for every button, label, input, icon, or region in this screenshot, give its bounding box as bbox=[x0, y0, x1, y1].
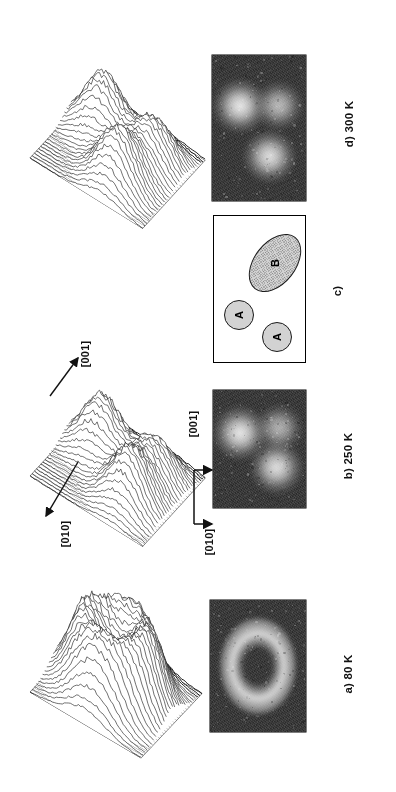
photo-speckle bbox=[303, 718, 305, 720]
photo-speckle bbox=[255, 423, 256, 424]
photo-speckle bbox=[220, 188, 221, 189]
photo-speckle bbox=[250, 410, 251, 411]
photo-speckle bbox=[223, 132, 225, 134]
photo-speckle bbox=[273, 408, 275, 410]
photo-speckle bbox=[231, 628, 233, 630]
photo-speckle bbox=[238, 700, 240, 702]
photo-speckle bbox=[246, 115, 247, 116]
photo-speckle bbox=[219, 652, 220, 653]
photo-speckle bbox=[249, 721, 250, 722]
photo-speckle bbox=[285, 399, 287, 401]
photo-speckle bbox=[231, 472, 232, 473]
photo-speckle bbox=[246, 649, 248, 651]
photo-speckle bbox=[254, 446, 255, 447]
photo-speckle bbox=[260, 689, 261, 690]
photo-speckle bbox=[221, 110, 223, 112]
photo-speckle bbox=[230, 661, 231, 662]
photo-speckle bbox=[278, 437, 279, 438]
photo-speckle bbox=[272, 115, 273, 116]
photo-speckle bbox=[255, 494, 256, 495]
photo-speckle bbox=[291, 55, 293, 57]
photo-speckle bbox=[280, 199, 282, 201]
photo-speckle bbox=[257, 61, 259, 63]
photo-speckle bbox=[269, 199, 271, 201]
photo-speckle bbox=[294, 731, 295, 732]
photo-speckle bbox=[241, 681, 243, 683]
photo-speckle bbox=[246, 670, 248, 672]
photo-speckle bbox=[292, 670, 294, 672]
photo-speckle bbox=[217, 629, 218, 630]
diffraction-spot bbox=[256, 405, 302, 451]
photo-speckle bbox=[227, 425, 228, 426]
photo-speckle bbox=[270, 419, 272, 421]
photo-speckle bbox=[225, 421, 227, 423]
photo-speckle bbox=[244, 56, 246, 58]
photo-speckle bbox=[274, 118, 276, 120]
photo-speckle bbox=[221, 155, 222, 156]
photo-speckle bbox=[223, 193, 225, 195]
panel-label-d: d) 300 K bbox=[343, 101, 355, 147]
photo-speckle bbox=[256, 477, 258, 479]
photo-speckle bbox=[258, 143, 259, 144]
photo-speckle bbox=[263, 408, 265, 410]
photo-speckle bbox=[298, 620, 300, 622]
photo-speckle bbox=[210, 729, 212, 731]
schematic-blob-a2: A bbox=[262, 322, 292, 352]
photo-speckle bbox=[273, 710, 274, 711]
photo-speckle bbox=[245, 75, 246, 76]
photo-speckle bbox=[230, 413, 232, 415]
photo-speckle bbox=[263, 80, 264, 81]
photo-speckle bbox=[269, 163, 270, 164]
photo-speckle bbox=[246, 618, 248, 620]
photo-speckle bbox=[255, 677, 256, 678]
photo-speckle bbox=[305, 393, 306, 394]
photo-speckle bbox=[296, 190, 298, 192]
photo-speckle bbox=[240, 683, 241, 684]
photo-speckle bbox=[218, 166, 220, 168]
photo-speckle bbox=[281, 137, 282, 138]
photo-speckle bbox=[287, 404, 288, 405]
photo-speckle bbox=[224, 694, 226, 696]
photo-speckle bbox=[293, 727, 294, 728]
photo-speckle bbox=[211, 653, 212, 654]
photo-speckle bbox=[293, 124, 295, 126]
photo-speckle bbox=[304, 678, 306, 680]
direction-axes-cross bbox=[188, 440, 228, 530]
photo-speckle bbox=[262, 188, 264, 190]
photo-speckle bbox=[298, 104, 300, 106]
figure-root: [001] [010] d) 300 K A B bbox=[0, 0, 396, 792]
mesh-plot-300k bbox=[14, 8, 204, 266]
photo-speckle bbox=[236, 200, 237, 201]
photo-speckle bbox=[217, 711, 219, 713]
photo-speckle bbox=[258, 605, 260, 607]
panel-label-a: a) 80 K bbox=[342, 654, 354, 693]
photo-speckle bbox=[270, 471, 272, 473]
photo-speckle bbox=[214, 703, 215, 704]
photo-speckle bbox=[284, 507, 286, 508]
photo-speckle bbox=[282, 80, 283, 81]
photo-speckle bbox=[233, 434, 235, 436]
photo-speckle bbox=[258, 664, 259, 665]
photo-speckle bbox=[227, 167, 228, 168]
photo-speckle bbox=[253, 650, 255, 652]
photo-speckle bbox=[293, 66, 294, 67]
photo-speckle bbox=[247, 63, 249, 65]
photo-speckle bbox=[265, 78, 267, 80]
photo-speckle bbox=[252, 646, 253, 647]
photo-speckle bbox=[233, 637, 235, 639]
photo-speckle bbox=[233, 428, 234, 429]
photo-speckle bbox=[264, 165, 266, 167]
photo-speckle bbox=[218, 198, 219, 199]
photo-speckle bbox=[280, 643, 281, 644]
photo-speckle bbox=[241, 719, 242, 720]
photo-speckle bbox=[222, 437, 223, 438]
photo-speckle bbox=[252, 149, 254, 151]
photo-speckle bbox=[271, 391, 272, 392]
photo-speckle bbox=[246, 189, 247, 190]
photo-speckle bbox=[232, 500, 234, 502]
photo-speckle bbox=[236, 176, 237, 177]
photo-speckle bbox=[290, 609, 292, 611]
photo-speckle bbox=[234, 138, 236, 140]
photo-speckle bbox=[234, 642, 236, 644]
photo-speckle bbox=[247, 609, 249, 611]
